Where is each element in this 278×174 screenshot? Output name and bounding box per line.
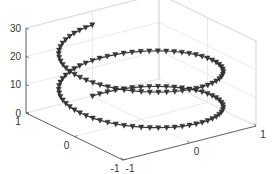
helix-3d-plot: 010203010-1-101 — [0, 0, 278, 174]
y-tick-label: 0 — [64, 140, 70, 151]
x-tick-label: 1 — [260, 129, 266, 140]
grid-line — [75, 103, 208, 137]
z-tick-label: 30 — [10, 23, 22, 34]
down-triangle-marker — [67, 105, 72, 110]
y-tick-label: 1 — [15, 116, 21, 127]
z-tick-label: 20 — [10, 51, 22, 62]
helix-line — [59, 25, 224, 128]
z-tick-label: 10 — [10, 79, 22, 90]
x-tick-label: -1 — [126, 163, 135, 174]
helix-series — [56, 23, 226, 131]
x-tick-label: 0 — [194, 146, 200, 157]
z-tick — [26, 85, 29, 86]
y-tick — [75, 136, 78, 137]
z-tick — [26, 56, 29, 57]
y-tick — [26, 112, 29, 113]
y-tick-label: -1 — [111, 163, 120, 174]
tick-labels: 010203010-1-101 — [10, 23, 266, 174]
z-tick — [26, 28, 29, 29]
down-triangle-marker — [72, 31, 77, 36]
y-tick — [123, 159, 126, 160]
